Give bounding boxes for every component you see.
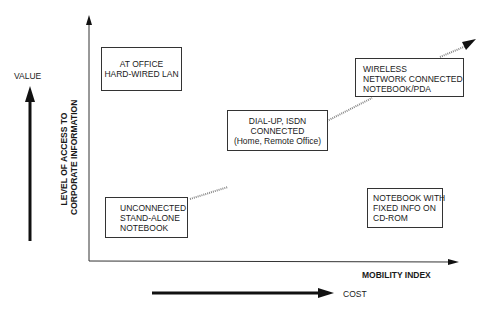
trend-arrowhead-icon — [462, 39, 476, 50]
value-label: VALUE — [14, 71, 41, 81]
y-axis-label-line-1: LEVEL OF ACCESS TO — [59, 103, 69, 215]
wireless-line-2: NETWORK CONNECTED — [363, 74, 463, 84]
y-axis-label-line-2: CORPORATE INFORMATION — [69, 103, 79, 215]
trend-line-segment-1 — [190, 187, 228, 199]
wireless-line-3: NOTEBOOK/PDA — [363, 84, 463, 94]
notebook-cdrom-box: NOTEBOOK WITH FIXED INFO ON CD-ROM — [367, 188, 443, 228]
wireless-box: WIRELESS NETWORK CONNECTED NOTEBOOK/PDA — [355, 58, 464, 97]
notebook-cdrom-line-2: FIXED INFO ON — [373, 203, 442, 213]
wireless-line-1: WIRELESS — [363, 64, 463, 74]
unconnected-line-3: NOTEBOOK — [120, 223, 187, 233]
at-office-line-2: HARD-WIRED LAN — [102, 69, 181, 79]
x-axis-label: MOBILITY INDEX — [362, 270, 431, 280]
at-office-box: AT OFFICE HARD-WIRED LAN — [101, 47, 182, 91]
x-axis-arrowhead-icon — [448, 259, 459, 265]
notebook-cdrom-line-1: NOTEBOOK WITH — [373, 193, 442, 203]
dialup-box: DIAL-UP, ISDN CONNECTED (Home, Remote Of… — [227, 110, 328, 151]
unconnected-box: UNCONNECTED STAND-ALONE NOTEBOOK — [105, 197, 188, 238]
unconnected-line-2: STAND-ALONE — [120, 213, 187, 223]
x-axis-line — [89, 261, 452, 262]
dialup-line-2: CONNECTED — [228, 126, 327, 136]
trend-line-segment-2 — [327, 98, 372, 121]
cost-label: COST — [343, 289, 367, 299]
dialup-line-1: DIAL-UP, ISDN — [228, 116, 327, 126]
value-arrow-head-icon — [25, 86, 35, 102]
at-office-line-1: AT OFFICE — [102, 59, 181, 69]
y-axis-arrowhead-icon — [86, 15, 92, 25]
notebook-cdrom-line-3: CD-ROM — [373, 213, 442, 223]
cost-arrow-head-icon — [318, 288, 334, 298]
y-axis-label: LEVEL OF ACCESS TO CORPORATE INFORMATION — [59, 103, 81, 215]
trend-line-segment-3 — [440, 46, 466, 57]
unconnected-line-1: UNCONNECTED — [120, 203, 187, 213]
dialup-line-3: (Home, Remote Office) — [228, 136, 327, 146]
